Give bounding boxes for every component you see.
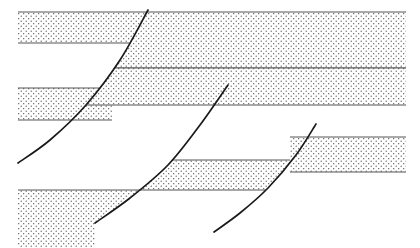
cross-section-figure — [0, 0, 420, 248]
cross-section-canvas — [0, 0, 420, 248]
stratum-bed-2-block-c — [214, 68, 406, 105]
stratum-bed-1-block-b — [114, 12, 406, 68]
stratum-bed-1-block-a — [18, 12, 147, 43]
stratum-bed-3-block-c — [290, 137, 406, 172]
